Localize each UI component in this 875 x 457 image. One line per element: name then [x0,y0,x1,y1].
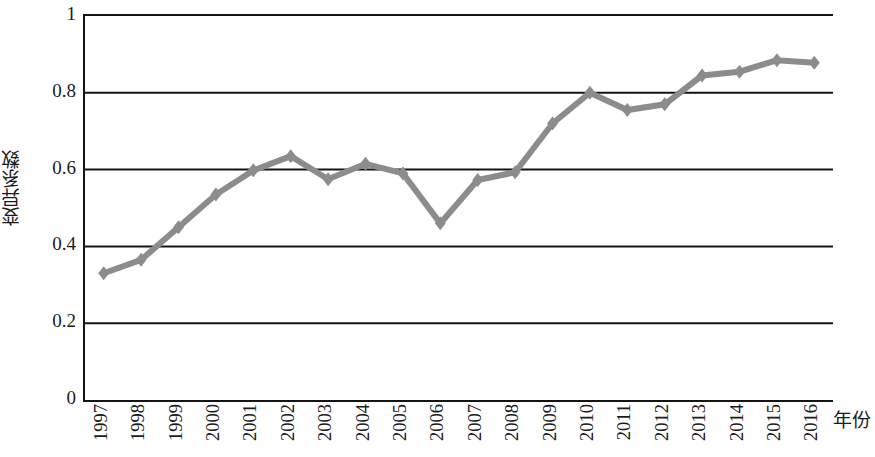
x-axis-tick-label: 2009 [541,404,561,441]
x-axis-tick-label: 2006 [428,404,448,441]
y-axis-tick-labels: 00.20.40.60.81 [24,0,76,457]
x-axis-tick-label: 2010 [578,404,598,441]
x-axis-tick-label: 2007 [466,404,486,441]
x-axis-tick-label: 1997 [92,404,112,441]
x-axis-tick-label: 2011 [615,404,635,440]
y-axis-tick-label: 0.8 [32,81,76,100]
x-axis-tick-label: 2004 [354,404,374,441]
x-axis-title: 年份 [833,405,871,432]
x-axis-tick-label: 2003 [316,404,336,441]
gridlines [85,16,833,323]
line-chart: 变异系数 00.20.40.60.81 19971998199920002001… [0,0,875,457]
y-axis-tick-label: 0.2 [32,311,76,330]
x-axis-tick-label: 2005 [391,404,411,441]
chart-canvas [85,16,833,400]
x-axis-tick-label: 2002 [279,404,299,441]
y-axis-tick-label: 1 [32,4,76,23]
x-axis-tick-label: 2016 [802,404,822,441]
x-axis-tick-label: 2013 [690,404,710,441]
y-axis-tick-label: 0 [32,388,76,407]
y-axis-tick-label: 0.4 [32,234,76,253]
data-point-marker [771,53,782,67]
y-axis-tick-label: 0.6 [32,158,76,177]
x-axis-tick-label: 2001 [241,404,261,441]
x-axis-tick-label: 2008 [503,404,523,441]
x-axis-tick-label: 2000 [204,404,224,441]
data-point-marker [98,266,109,280]
x-axis-tick-label: 1998 [129,404,149,441]
x-axis-tick-label: 2014 [728,404,748,441]
x-axis-tick-label: 2012 [653,404,673,441]
data-point-marker [809,56,820,70]
plot-area [83,14,833,402]
x-axis-tick-label: 1999 [167,404,187,441]
data-point-marker [734,65,745,79]
x-axis-tick-label: 2015 [765,404,785,441]
